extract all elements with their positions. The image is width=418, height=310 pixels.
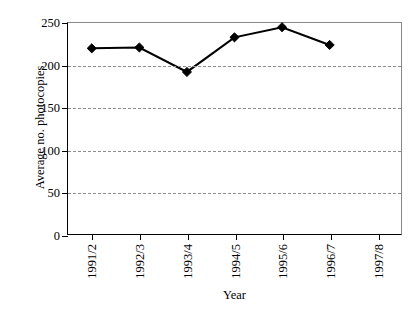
gridline bbox=[68, 193, 401, 194]
data-series-layer bbox=[68, 23, 401, 234]
y-axis-tick bbox=[62, 66, 68, 67]
x-axis-tick bbox=[188, 234, 189, 240]
x-axis-tick-label: 1996/7 bbox=[331, 244, 346, 279]
y-axis-tick-label: 250 bbox=[41, 16, 60, 31]
plot-area: 0501001502002501991/21992/31993/41994/51… bbox=[67, 22, 402, 235]
x-axis-tick-label: 1993/4 bbox=[188, 244, 203, 279]
chart-figure: Average no. photocopies 0501001502002501… bbox=[0, 0, 418, 310]
gridline bbox=[68, 66, 401, 67]
y-axis-tick bbox=[62, 236, 68, 237]
x-axis-tick bbox=[92, 234, 93, 240]
y-axis-tick bbox=[62, 23, 68, 24]
y-axis-tick-label: 200 bbox=[41, 58, 60, 73]
x-axis-tick bbox=[331, 234, 332, 240]
y-axis-tick-label: 0 bbox=[54, 229, 60, 244]
x-axis-tick-label: 1991/2 bbox=[92, 244, 107, 279]
x-axis-tick-label: 1992/3 bbox=[140, 244, 155, 279]
data-point-marker bbox=[277, 23, 286, 32]
gridline bbox=[68, 108, 401, 109]
x-axis-tick-label: 1997/8 bbox=[379, 244, 394, 279]
y-axis-tick bbox=[62, 193, 68, 194]
y-axis-tick-label: 50 bbox=[48, 186, 61, 201]
x-axis-tick bbox=[283, 234, 284, 240]
data-point-marker bbox=[135, 43, 144, 52]
y-axis-tick bbox=[62, 151, 68, 152]
x-axis-tick bbox=[379, 234, 380, 240]
x-axis-tick-label: 1995/6 bbox=[283, 244, 298, 279]
x-axis-tick bbox=[140, 234, 141, 240]
x-axis-tick bbox=[236, 234, 237, 240]
y-axis-tick-label: 100 bbox=[41, 143, 60, 158]
x-axis-tick-label: 1994/5 bbox=[236, 244, 251, 279]
data-point-marker bbox=[87, 44, 96, 53]
data-point-marker bbox=[325, 40, 334, 49]
y-axis-tick bbox=[62, 108, 68, 109]
y-axis-tick-label: 150 bbox=[41, 101, 60, 116]
x-axis-title: Year bbox=[67, 288, 402, 303]
gridline bbox=[68, 151, 401, 152]
